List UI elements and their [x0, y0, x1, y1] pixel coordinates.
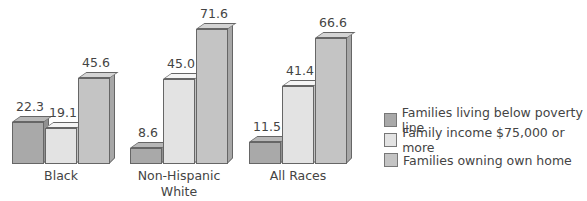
- bar-front-face: [196, 29, 228, 164]
- bar: [45, 128, 77, 164]
- legend-swatch-income: [384, 133, 397, 147]
- bar: [12, 122, 44, 164]
- bar-value-label: 45.0: [161, 56, 201, 71]
- bar-front-face: [45, 128, 77, 164]
- bar: [282, 86, 314, 164]
- bar-value-label: 71.6: [194, 6, 234, 21]
- bar-front-face: [282, 86, 314, 164]
- bar-value-label: 8.6: [128, 125, 168, 140]
- chart-legend: Families living below poverty line Famil…: [384, 110, 587, 170]
- bar-chart-plot: 22.319.145.6Black8.645.071.6Non-Hispanic…: [0, 0, 360, 201]
- bar: [78, 78, 110, 164]
- bar-value-label: 41.4: [280, 63, 320, 78]
- bar-front-face: [12, 122, 44, 164]
- bar: [130, 148, 162, 164]
- category-label: Non-HispanicWhite: [120, 168, 238, 200]
- legend-swatch-homeowning: [384, 153, 398, 167]
- bar-value-label: 66.6: [313, 15, 353, 30]
- bar-front-face: [249, 142, 281, 164]
- legend-label-income: Family income $75,000 or more: [402, 125, 587, 155]
- bar-front-face: [315, 38, 347, 164]
- legend-item-homeowning: Families owning own home: [384, 150, 587, 170]
- bar: [163, 79, 195, 164]
- bar: [249, 142, 281, 164]
- bar-value-label: 11.5: [247, 119, 287, 134]
- bar-front-face: [130, 148, 162, 164]
- bar-front-face: [163, 79, 195, 164]
- legend-label-homeowning: Families owning own home: [403, 153, 572, 168]
- bar: [196, 29, 228, 164]
- bar: [315, 38, 347, 164]
- legend-item-income: Family income $75,000 or more: [384, 130, 587, 150]
- bar-value-label: 19.1: [43, 105, 83, 120]
- category-label: All Races: [239, 168, 357, 184]
- legend-swatch-poverty: [384, 113, 397, 127]
- category-label: Black: [2, 168, 120, 184]
- bar-value-label: 45.6: [76, 55, 116, 70]
- bar-front-face: [78, 78, 110, 164]
